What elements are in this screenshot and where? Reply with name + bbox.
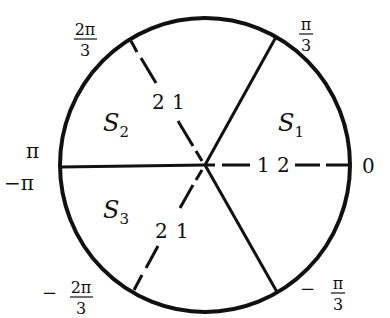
dashed-ray-neg-2pi-over-3 [134, 170, 202, 290]
svg-text:3: 3 [80, 41, 90, 60]
svg-text:3: 3 [333, 295, 343, 314]
solid-ray-pi [60, 165, 205, 167]
rayneg2pi3-label-2: 2 [155, 219, 168, 243]
svg-text:3: 3 [76, 299, 86, 318]
region-label-s3: S3 [103, 196, 129, 228]
svg-text:−: − [42, 282, 57, 303]
region-label-s2: S2 [103, 109, 129, 141]
solid-ray-neg-pi-over-3 [205, 165, 277, 292]
angle-label-pi-over-3: π 3 [299, 15, 313, 55]
angle-label-neg-2pi-over-3: − 2π 3 [42, 278, 93, 318]
rayneg2pi3-label-1: 1 [176, 219, 189, 243]
svg-text:3: 3 [301, 36, 311, 55]
svg-text:2π: 2π [75, 20, 96, 39]
solid-ray-pi-over-3 [205, 37, 276, 165]
svg-text:2π: 2π [71, 278, 92, 297]
angle-label-neg-pi-over-3: − π 3 [300, 274, 345, 314]
circle-partition-diagram: S1 S2 S3 1 2 2 1 2 1 0 π 3 2π 3 π −π − 2… [0, 0, 390, 318]
ray2pi3-label-1: 1 [172, 90, 185, 114]
svg-text:−: − [300, 278, 315, 299]
ray0-label-2: 2 [277, 153, 290, 177]
ray2pi3-label-2: 2 [152, 90, 165, 114]
ray0-label-1: 1 [257, 153, 270, 177]
angle-label-2pi-over-3: 2π 3 [74, 20, 97, 60]
region-label-s1: S1 [278, 109, 304, 141]
angle-label-pi: π [26, 139, 39, 163]
dashed-ray-2pi-over-3 [131, 41, 202, 161]
angle-label-0: 0 [362, 154, 375, 178]
svg-text:π: π [301, 15, 312, 34]
angle-label-neg-pi: −π [4, 171, 34, 195]
svg-text:π: π [333, 274, 344, 293]
